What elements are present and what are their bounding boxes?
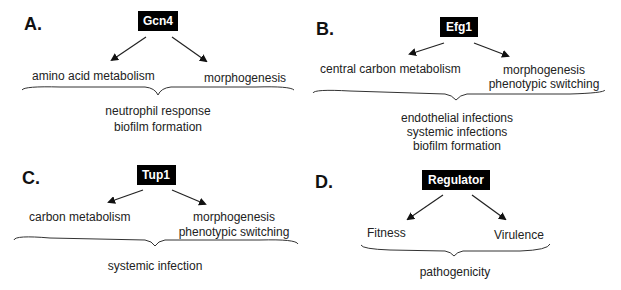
regulator-name: Gcn4 — [143, 14, 173, 28]
panel-label: C. — [22, 168, 40, 188]
result-line-2: biofilm formation — [114, 120, 202, 134]
result-line-3: biofilm formation — [413, 139, 501, 153]
arrow-right — [472, 195, 505, 219]
left-outcome: Fitness — [367, 226, 406, 240]
panel-label: D. — [315, 172, 333, 192]
panel-a: A. Gcn4 amino acid metabolism morphogene… — [22, 11, 294, 134]
result-line-1: neutrophil response — [105, 104, 211, 118]
regulator-diagram: A. Gcn4 amino acid metabolism morphogene… — [0, 0, 621, 290]
left-outcome: central carbon metabolism — [320, 62, 461, 76]
result-line-2: systemic infections — [407, 125, 508, 139]
panel-d: D. Regulator Fitness Virulence pathogeni… — [315, 170, 550, 279]
arrow-right — [172, 190, 205, 204]
arrow-left — [112, 37, 146, 60]
right-outcome-line-1: morphogenesis — [193, 210, 275, 224]
arrow-left — [109, 190, 143, 202]
right-outcome: Virulence — [494, 228, 544, 242]
grouping-brace — [361, 244, 550, 256]
panel-c: C. Tup1 carbon metabolism morphogenesis … — [14, 165, 298, 273]
right-outcome: morphogenesis — [204, 71, 286, 85]
arrow-left — [410, 43, 444, 54]
regulator-name: Efg1 — [446, 20, 472, 34]
right-outcome-line-2: phenotypic switching — [179, 225, 290, 239]
right-outcome-line-1: morphogenesis — [503, 63, 585, 77]
grouping-brace — [22, 87, 294, 95]
panel-label: B. — [316, 19, 334, 39]
result-line-1: pathogenicity — [420, 265, 491, 279]
arrow-left — [408, 195, 443, 219]
arrow-right — [474, 43, 508, 56]
grouping-brace — [313, 90, 605, 100]
panel-label: A. — [24, 14, 42, 34]
result-line-1: endothelial infections — [401, 111, 513, 125]
regulator-name: Regulator — [428, 173, 484, 187]
right-outcome-line-2: phenotypic switching — [489, 77, 600, 91]
left-outcome: carbon metabolism — [29, 210, 130, 224]
left-outcome: amino acid metabolism — [32, 69, 155, 83]
panel-b: B. Efg1 central carbon metabolism morpho… — [313, 17, 605, 153]
arrow-right — [172, 37, 206, 61]
result-line-1: systemic infection — [108, 259, 203, 273]
regulator-name: Tup1 — [142, 168, 170, 182]
